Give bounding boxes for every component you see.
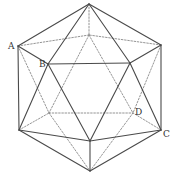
- hidden-edge-K1-K2: [49, 35, 89, 113]
- visible-edge-F2-R1: [130, 45, 161, 63]
- hidden-edge-K1-D: [89, 35, 133, 113]
- visible-edge-L2-Bt: [19, 130, 90, 171]
- visible-edge-T-F2: [89, 4, 130, 63]
- visible-edge-F2-F3: [90, 63, 130, 141]
- visible-edge-T-R1: [89, 4, 161, 45]
- visible-edge-B-F3: [48, 64, 90, 141]
- vertex-label-c: C: [163, 129, 170, 139]
- visible-edge-F2-C: [130, 63, 161, 130]
- visible-edge-A-L2: [18, 46, 19, 130]
- visible-edge-L2-F3: [19, 130, 90, 141]
- icosahedron-diagram: ABDC: [0, 0, 173, 176]
- visible-edge-C-Bt: [90, 130, 161, 171]
- vertex-label-b: B: [39, 59, 46, 69]
- hidden-edge-L2-K2: [19, 113, 49, 130]
- vertex-label-a: A: [7, 41, 15, 51]
- vertex-labels: ABDC: [7, 41, 170, 139]
- visible-edge-T-A: [18, 4, 89, 46]
- visible-edge-T-B: [48, 4, 89, 64]
- hidden-edge-A-K1: [18, 35, 89, 46]
- visible-edge-F3-C: [90, 130, 161, 141]
- hidden-edge-A-K2: [18, 46, 49, 113]
- vertex-label-d: D: [135, 107, 142, 117]
- hidden-edge-K2-Bt: [49, 113, 90, 171]
- visible-edges: [18, 4, 161, 171]
- hidden-edge-R1-K1: [89, 35, 161, 45]
- visible-edge-B-L2: [19, 64, 48, 130]
- hidden-edge-D-Bt: [90, 113, 133, 171]
- visible-edge-B-F2: [48, 63, 130, 64]
